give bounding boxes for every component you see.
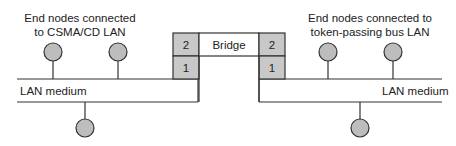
- left-lan-medium-label: LAN medium: [20, 84, 86, 98]
- bridge-right-layer-1: 1: [259, 61, 285, 75]
- right-lan-medium-label: LAN medium: [382, 84, 448, 98]
- left-caption-line1: End nodes connected: [15, 11, 145, 25]
- bridge-left-layer-1: 1: [173, 61, 199, 75]
- bridge-label: Bridge: [199, 38, 259, 52]
- right-lan-caption: End nodes connected to token-passing bus…: [300, 11, 440, 39]
- right-end-node-3: [351, 102, 369, 137]
- left-caption-line2: to CSMA/CD LAN: [15, 25, 145, 39]
- bridge-left-layer-2: 2: [173, 38, 199, 52]
- left-end-node-3: [76, 102, 94, 137]
- right-caption-line2: token-passing bus LAN: [300, 25, 440, 39]
- bridge-right-layer-2: 2: [259, 38, 285, 52]
- left-lan-caption: End nodes connected to CSMA/CD LAN: [15, 11, 145, 39]
- right-caption-line1: End nodes connected to: [300, 11, 440, 25]
- left-end-node-1: [44, 43, 62, 79]
- right-end-node-1: [319, 43, 337, 79]
- left-end-node-2: [109, 43, 127, 79]
- right-end-node-2: [384, 43, 402, 79]
